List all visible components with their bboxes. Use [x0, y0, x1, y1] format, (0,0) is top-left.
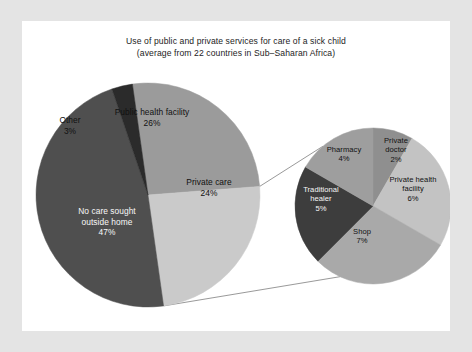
slice-label-traditional-pct: 5%	[290, 204, 352, 213]
slice-label-public-health-facility-text: Public health facility	[115, 107, 190, 117]
slice-label-other-pct: 3%	[44, 126, 96, 137]
slice-label-shop: Shop 7%	[340, 227, 384, 246]
slice-label-pharmacy: Pharmacy 4%	[314, 145, 374, 164]
slice-label-other: Other 3%	[44, 115, 96, 136]
figure-frame: Use of public and private services for c…	[0, 0, 472, 352]
slice-label-public-health-facility: Public health facility 26%	[94, 107, 210, 128]
slice-label-private-doctor: Private doctor 2%	[372, 136, 420, 164]
slice-label-traditional-healer: Traditional healer 5%	[290, 185, 352, 213]
slice-label-public-health-facility-pct: 26%	[94, 118, 210, 129]
slice-label-shop-pct: 7%	[340, 236, 384, 245]
slice-label-private-doctor-pct: 2%	[372, 155, 420, 164]
slice-label-private-care: Private care 24%	[166, 177, 252, 198]
slice-label-other-text: Other	[59, 115, 80, 125]
slice-label-private-health-line1: Private health	[389, 175, 436, 184]
slice-label-private-health-facility: Private health facility 6%	[374, 175, 452, 203]
slice-label-no-care-sought: No care sought outside home 47%	[54, 206, 160, 238]
slice-label-traditional-line2: healer	[310, 194, 331, 203]
slice-label-private-health-pct: 6%	[374, 194, 452, 203]
slice-label-private-health-line2: facility	[402, 184, 424, 193]
slice-label-pharmacy-text: Pharmacy	[327, 145, 362, 154]
slice-label-traditional-line1: Traditional	[303, 185, 339, 194]
pie-slice-private-care	[148, 186, 260, 306]
slice-label-private-doctor-line1: Private	[384, 136, 408, 145]
chart-canvas: Use of public and private services for c…	[22, 21, 450, 331]
slice-label-no-care-line2: outside home	[82, 217, 133, 227]
slice-label-private-care-text: Private care	[186, 177, 231, 187]
slice-label-private-care-pct: 24%	[166, 188, 252, 199]
slice-label-no-care-pct: 47%	[54, 227, 160, 238]
slice-label-no-care-line1: No care sought	[78, 206, 136, 216]
slice-label-private-doctor-line2: doctor	[385, 145, 406, 154]
slice-label-shop-text: Shop	[353, 227, 371, 236]
slice-label-pharmacy-pct: 4%	[314, 154, 374, 163]
